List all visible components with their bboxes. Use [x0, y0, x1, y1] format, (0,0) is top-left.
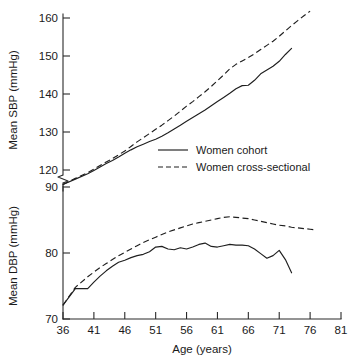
- x-tick-label-71: 71: [273, 324, 286, 336]
- x-axis-tick-labels: 36414651566166717681: [57, 324, 348, 336]
- dbp-y-axis-title: Mean DBP (mmHg): [7, 206, 19, 306]
- x-tick-label-66: 66: [242, 324, 255, 336]
- x-tick-label-76: 76: [304, 324, 317, 336]
- sbp-axis-break-mark: [58, 175, 68, 183]
- blood-pressure-by-age-figure: Mean SBP (mmHg) 160 150 140 130 120: [0, 0, 361, 361]
- legend-label-women-cross-sectional: Women cross-sectional: [196, 161, 310, 173]
- x-tick-label-51: 51: [149, 324, 162, 336]
- legend-label-women-cohort: Women cohort: [196, 144, 267, 156]
- dbp-women-cross-sectional-line: [63, 217, 316, 305]
- sbp-tick-label-140: 140: [39, 88, 58, 100]
- legend: Women cohort Women cross-sectional: [158, 144, 310, 173]
- x-tick-label-81: 81: [335, 324, 348, 336]
- x-axis-title: Age (years): [172, 343, 232, 355]
- sbp-women-cross-sectional-line: [63, 11, 310, 184]
- sbp-y-axis-title: Mean SBP (mmHg): [7, 50, 19, 150]
- sbp-tick-label-120: 120: [39, 164, 58, 176]
- sbp-tick-label-150: 150: [39, 50, 58, 62]
- chart-canvas: Mean SBP (mmHg) 160 150 140 130 120: [0, 0, 361, 361]
- x-axis-ticks: [63, 312, 341, 319]
- x-tick-label-61: 61: [211, 324, 224, 336]
- dbp-tick-label-90: 90: [45, 181, 58, 193]
- dbp-tick-label-80: 80: [45, 247, 58, 259]
- sbp-tick-label-160: 160: [39, 12, 58, 24]
- sbp-panel: Mean SBP (mmHg) 160 150 140 130 120: [7, 11, 310, 191]
- x-tick-label-41: 41: [87, 324, 100, 336]
- x-tick-label-46: 46: [118, 324, 131, 336]
- dbp-women-cohort-line: [63, 243, 292, 305]
- dbp-panel: Mean DBP (mmHg) 90 80 70 364146515661667…: [7, 181, 347, 355]
- x-tick-label-56: 56: [180, 324, 193, 336]
- sbp-tick-label-130: 130: [39, 126, 58, 138]
- x-tick-label-36: 36: [57, 324, 70, 336]
